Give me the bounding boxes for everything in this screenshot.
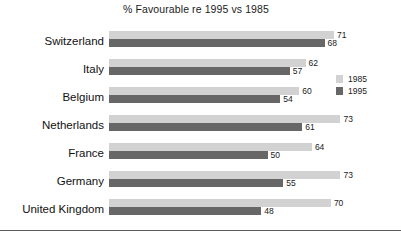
legend-swatch-icon: [336, 75, 343, 83]
bar-1985: [109, 171, 340, 179]
bar-1995: [109, 39, 325, 47]
bar-value-label: 70: [334, 199, 343, 207]
bar-row: Switzerland7168: [0, 31, 401, 52]
bar-1995: [109, 95, 280, 103]
legend-label: 1995: [348, 86, 367, 97]
bar-value-label: 55: [286, 179, 295, 187]
plot-area: Switzerland7168Italy6257Belgium6054Nethe…: [0, 25, 401, 225]
legend-item: 1985: [336, 74, 396, 85]
bar-value-label: 57: [293, 67, 302, 75]
bar-1985: [109, 199, 331, 207]
bar-value-label: 64: [315, 143, 324, 151]
bar-1995: [109, 207, 261, 215]
category-label: Germany: [0, 173, 104, 190]
bar-value-label: 50: [271, 151, 280, 159]
category-label: United Kingdom: [0, 201, 104, 218]
chart-legend: 19851995: [336, 74, 396, 98]
category-label: Italy: [0, 61, 104, 78]
bar-value-label: 54: [283, 95, 292, 103]
bar-value-label: 73: [343, 115, 352, 123]
bar-1985: [109, 143, 312, 151]
bar-value-label: 68: [328, 39, 337, 47]
bar-value-label: 61: [305, 123, 314, 131]
bar-value-label: 73: [343, 171, 352, 179]
bar-1985: [109, 87, 299, 95]
bar-value-label: 60: [302, 87, 311, 95]
bar-1995: [109, 123, 302, 131]
bar-1995: [109, 67, 290, 75]
bar-1995: [109, 151, 268, 159]
bar-row: Germany7355: [0, 171, 401, 192]
legend-swatch-icon: [336, 87, 343, 95]
chart-title: % Favourable re 1995 vs 1985: [0, 3, 392, 15]
bar-row: Netherlands7361: [0, 115, 401, 136]
bar-chart: % Favourable re 1995 vs 1985 Switzerland…: [0, 0, 401, 231]
bar-1985: [109, 59, 306, 67]
bar-1985: [109, 31, 334, 39]
bar-value-label: 48: [264, 207, 273, 215]
bar-1995: [109, 179, 283, 187]
category-label: Belgium: [0, 89, 104, 106]
legend-label: 1985: [348, 74, 367, 85]
category-label: France: [0, 145, 104, 162]
bar-value-label: 71: [337, 31, 346, 39]
category-label: Netherlands: [0, 117, 104, 134]
legend-item: 1995: [336, 86, 396, 97]
category-label: Switzerland: [0, 33, 104, 50]
bar-row: France6450: [0, 143, 401, 164]
bar-row: United Kingdom7048: [0, 199, 401, 220]
bar-value-label: 62: [309, 59, 318, 67]
